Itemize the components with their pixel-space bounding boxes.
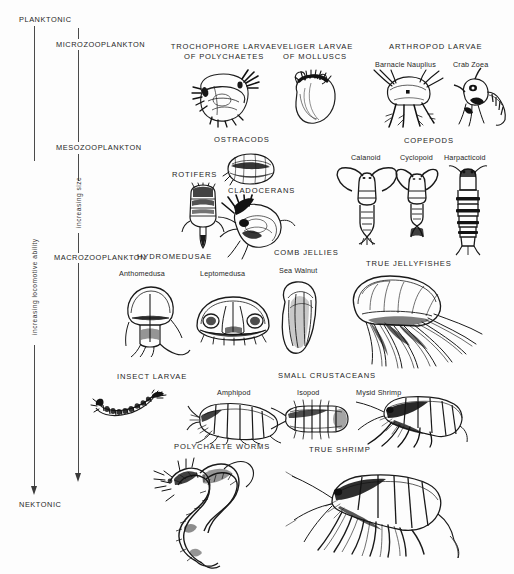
member-label-sea-walnut: Sea Walnut [279,266,317,275]
art-amphipod [186,398,282,444]
group-title-insect-larvae: INSECT LARVAE [117,372,187,381]
group-title-rotifers: ROTIFERS [172,170,217,179]
size-axis-line-seg2 [78,50,79,142]
art-trochophore-larva [188,70,264,128]
member-label-barnacle-nauplius: Barnacle Nauplius [375,60,436,69]
art-calanoid-copepod [336,165,398,245]
veliger-title-line2: OF MOLLUSCS [283,52,347,61]
locomotive-axis-line-lower [34,345,35,489]
trochophore-title-line2: OF POLYCHAETES [184,52,264,61]
member-label-amphipod: Amphipod [217,388,251,397]
locomotive-axis-line-upper [34,26,35,161]
group-title-cladocerans: CLADOCERANS [228,186,295,195]
member-label-isopod: Isopod [297,388,319,397]
trochophore-title-line1: TROCHOPHORE LARVAE [171,42,278,51]
art-crab-zoea [448,68,512,128]
art-insect-larva [90,390,170,424]
locomotive-axis-label: increasing locomotive ability [31,238,38,335]
group-title-ostracods: OSTRACODS [214,135,270,144]
member-label-leptomedusa: Leptomedusa [200,269,245,278]
art-anthomedusa [118,282,192,358]
size-axis-line-seg1 [78,28,79,39]
group-title-true-jellyfishes: TRUE JELLYFISHES [366,259,452,268]
member-label-calanoid: Calanoid [351,153,381,162]
group-title-polychaete-worms: POLYCHAETE WORMS [174,442,270,451]
art-ostracod [222,152,278,186]
zone-mesozooplankton: MESOZOOPLANKTON [56,143,142,152]
art-isopod [270,398,350,440]
group-title-veliger-larvae: VELIGER LARVAE OF MOLLUSCS [265,42,365,61]
group-title-comb-jellies: COMB JELLIES [274,248,339,257]
zooplankton-diagram: increasing locomotive ability PLANKTONIC… [0,0,514,574]
veliger-title-line1: VELIGER LARVAE [277,42,353,51]
group-title-copepods: COPEPODS [404,136,454,145]
group-title-hydromedusae: HYDROMEDUSAE [137,252,212,261]
group-title-trochophore-larvae: TROCHOPHORE LARVAE OF POLYCHAETES [168,42,280,61]
group-title-true-shrimp: TRUE SHRIMP [309,445,371,454]
art-barnacle-nauplius [372,70,444,128]
art-true-shrimp [282,462,462,562]
size-axis-line-seg5 [78,263,79,478]
art-cyclopoid-copepod [392,167,442,239]
art-harpacticoid-copepod [444,164,492,256]
group-title-small-crustaceans: SMALL CRUSTACEANS [278,371,376,380]
art-leptomedusa [192,292,274,346]
member-label-cyclopoid: Cyclopoid [400,153,433,162]
zone-nektonic: NEKTONIC [19,500,61,509]
size-axis-arrowhead [75,473,81,482]
art-veliger-larva [285,70,345,130]
member-label-harpacticoid: Harpacticoid [444,153,486,162]
art-polychaete-worm [140,455,260,571]
zone-planktonic: PLANKTONIC [19,15,72,24]
size-axis-label: increasing size [75,177,82,228]
art-sea-walnut [276,280,322,356]
zone-macrozooplankton: MACROZOOPLANKTON [54,253,146,262]
member-label-anthomedusa: Anthomedusa [119,269,165,278]
size-axis-line-seg4 [78,233,79,253]
group-title-arthropod-larvae: ARTHROPOD LARVAE [389,42,482,51]
zone-microzooplankton: MICROZOOPLANKTON [56,40,145,49]
art-true-jellyfish [340,272,510,372]
art-mysid-shrimp [350,390,470,448]
locomotive-axis-arrowhead [31,486,37,495]
